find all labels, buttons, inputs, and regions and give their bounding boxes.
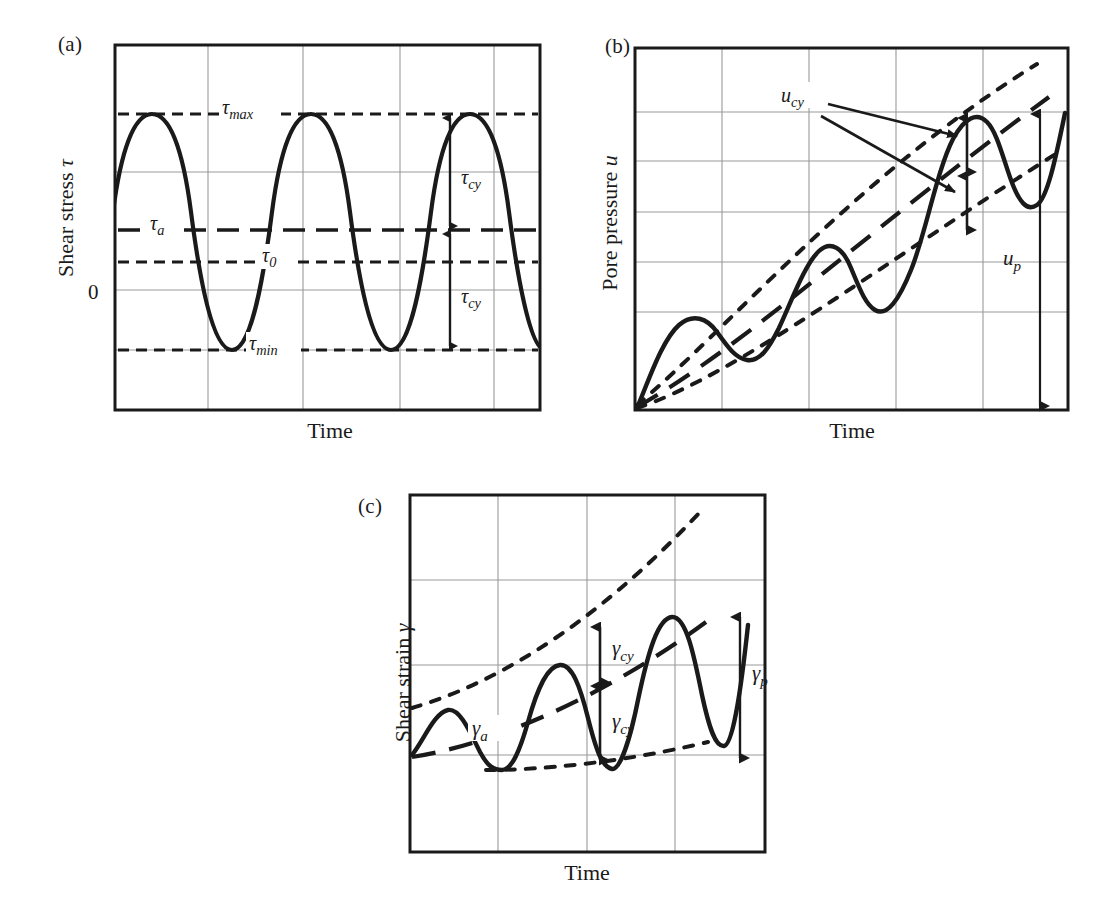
gamma-cy-upper-label: γcy	[612, 636, 634, 664]
panel-a-x-axis-title: Time	[215, 418, 445, 444]
panel-b-tag: (b)	[605, 34, 630, 59]
panel-b-x-axis-title: Time	[737, 418, 967, 444]
panel-c-y-axis-text: Shear strain	[390, 638, 415, 742]
panel-a-y-axis-title: Shear stress τ	[53, 128, 79, 308]
tau-0-label: τ0	[259, 244, 292, 270]
u-cy-label: ucy	[779, 82, 827, 110]
tau-max-label: τmax	[219, 96, 281, 122]
gamma-a-label: γa	[468, 715, 510, 744]
panel-c-plot: γcy γcy γa γp	[300, 470, 860, 914]
u-p-label-text: up	[1003, 246, 1022, 274]
u-cy-leader-lower	[821, 116, 955, 192]
pore-pressure-panel: (b) Pore pressure u	[557, 0, 1117, 470]
panel-b-y-axis-title: Pore pressure u	[597, 128, 623, 318]
panel-b-gridlines	[635, 48, 1068, 410]
shear-stress-panel: (a) Shear stress τ 0	[0, 0, 560, 470]
tau-min-label: τmin	[246, 332, 301, 358]
strain-average-line	[412, 622, 706, 757]
panel-a-y-axis-symbol: τ	[53, 159, 78, 167]
panel-c-y-axis-symbol: γ	[390, 624, 415, 633]
gamma-cy-lower-label: γcy	[612, 709, 634, 737]
tau-cy-lower-label: τcy	[461, 285, 482, 311]
panel-b-frame	[635, 48, 1068, 410]
panel-c-y-axis-title: Shear strain γ	[390, 593, 416, 773]
panel-c-gridlines	[410, 495, 765, 852]
strain-upper-envelope	[412, 512, 700, 708]
panel-c-measure-arrows	[600, 617, 740, 760]
panel-b-plot: ucy up	[557, 0, 1117, 470]
panel-c-x-axis-title: Time	[472, 860, 702, 886]
panel-c-labels: γcy γcy γa γp	[468, 636, 768, 744]
panel-b-y-axis-text: Pore pressure	[597, 172, 622, 291]
panel-a-y-axis-text: Shear stress	[53, 172, 78, 276]
shear-strain-panel: (c) Shear strain γ	[300, 470, 860, 914]
panel-c-tag: (c)	[358, 494, 382, 519]
panel-b-labels: ucy up	[779, 82, 1022, 274]
panel-a-tag: (a)	[58, 32, 82, 57]
tau-a-label: τa	[147, 212, 182, 238]
panel-a-labels: τmax τa τ0 τmin τcy τcy	[147, 96, 482, 358]
pore-lower-envelope	[637, 150, 1062, 408]
tau-cy-upper-label: τcy	[461, 166, 482, 192]
panel-b-y-axis-symbol: u	[597, 155, 622, 166]
figure-root: (a) Shear stress τ 0	[0, 0, 1117, 914]
panel-a-plot: τmax τa τ0 τmin τcy τcy	[0, 0, 560, 470]
panel-a-zero-label: 0	[88, 280, 99, 305]
